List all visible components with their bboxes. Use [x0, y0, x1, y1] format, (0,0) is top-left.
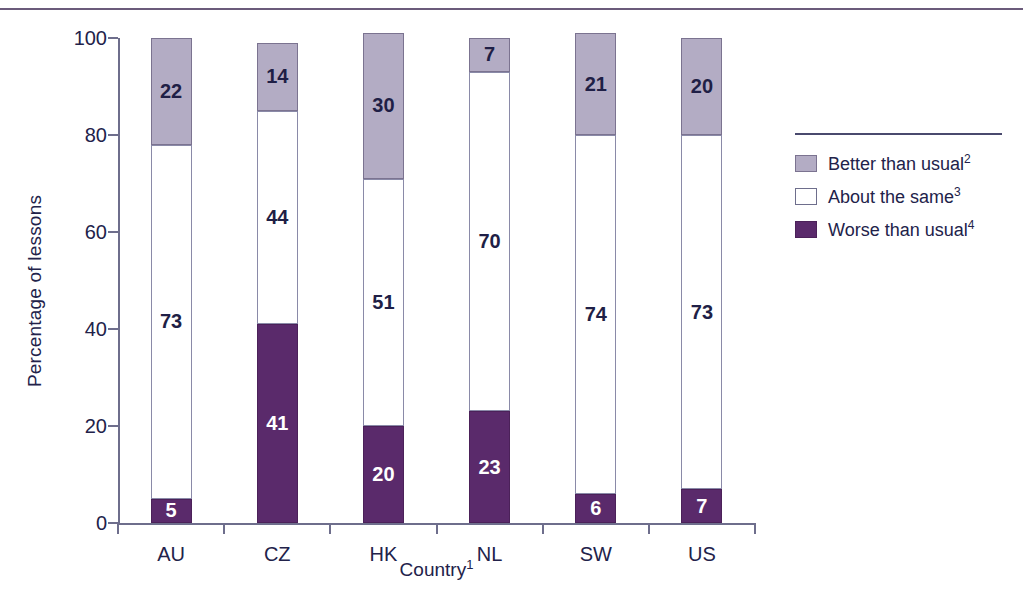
bar-segment-hk-worse-than-usual[interactable]: 20 [363, 426, 404, 523]
legend: Better than usual2About the same3Worse t… [795, 133, 1007, 251]
bar-segment-us-worse-than-usual[interactable]: 7 [681, 489, 722, 523]
legend-swatch-worse [795, 221, 817, 238]
x-axis-title-footnote: 1 [466, 557, 473, 572]
y-tick-label-20: 20 [37, 415, 107, 438]
x-tick-mark [223, 523, 225, 534]
x-axis-title: Country1 [118, 557, 755, 581]
bar-value-label: 20 [691, 75, 713, 98]
x-tick-mark [754, 523, 756, 534]
bar-value-label: 44 [266, 206, 288, 229]
bar-nl[interactable]: 77023 [469, 38, 510, 523]
bar-segment-au-about-the-same[interactable]: 73 [151, 145, 192, 499]
bar-value-label: 73 [691, 301, 713, 324]
bar-value-label: 5 [166, 499, 177, 522]
bar-segment-us-about-the-same[interactable]: 73 [681, 135, 722, 489]
bar-segment-sw-better-than-usual[interactable]: 21 [575, 33, 616, 135]
legend-divider-rule [795, 133, 1002, 135]
bar-hk[interactable]: 305120 [363, 33, 404, 523]
bar-sw[interactable]: 21746 [575, 33, 616, 523]
y-tick-mark [108, 425, 118, 427]
bar-segment-us-better-than-usual[interactable]: 20 [681, 38, 722, 135]
bar-value-label: 30 [372, 94, 394, 117]
x-tick-mark [117, 523, 119, 534]
y-tick-label-0: 0 [37, 512, 107, 535]
bar-segment-nl-better-than-usual[interactable]: 7 [469, 38, 510, 72]
x-tick-mark [648, 523, 650, 534]
y-tick-label-60: 60 [37, 221, 107, 244]
bar-value-label: 7 [696, 495, 707, 518]
legend-item-footnote: 2 [964, 152, 971, 166]
bar-value-label: 74 [585, 303, 607, 326]
bar-segment-hk-about-the-same[interactable]: 51 [363, 179, 404, 426]
legend-item-label: About the same3 [828, 185, 961, 208]
bar-value-label: 7 [484, 43, 495, 66]
x-tick-mark [329, 523, 331, 534]
y-tick-mark [108, 231, 118, 233]
bar-value-label: 51 [372, 291, 394, 314]
legend-item-about-the-same[interactable]: About the same3 [795, 185, 1007, 208]
legend-item-label: Better than usual2 [828, 152, 971, 175]
bar-value-label: 22 [160, 80, 182, 103]
y-tick-label-40: 40 [37, 318, 107, 341]
y-tick-mark [108, 328, 118, 330]
bar-value-label: 23 [478, 456, 500, 479]
bar-segment-cz-about-the-same[interactable]: 44 [257, 111, 298, 324]
bar-segment-nl-worse-than-usual[interactable]: 23 [469, 411, 510, 523]
bar-segment-sw-worse-than-usual[interactable]: 6 [575, 494, 616, 523]
legend-item-worse-than-usual[interactable]: Worse than usual4 [795, 218, 1007, 241]
legend-item-label: Worse than usual4 [828, 218, 974, 241]
y-tick-mark [108, 134, 118, 136]
y-tick-label-80: 80 [37, 124, 107, 147]
legend-item-footnote: 4 [968, 218, 975, 232]
bar-segment-au-better-than-usual[interactable]: 22 [151, 38, 192, 145]
legend-item-footnote: 3 [954, 185, 961, 199]
y-tick-mark [108, 37, 118, 39]
bar-segment-cz-worse-than-usual[interactable]: 41 [257, 324, 298, 523]
legend-swatch-same [795, 188, 817, 205]
bar-value-label: 14 [266, 65, 288, 88]
bar-value-label: 41 [266, 412, 288, 435]
legend-item-better-than-usual[interactable]: Better than usual2 [795, 152, 1007, 175]
bar-segment-nl-about-the-same[interactable]: 70 [469, 72, 510, 412]
bar-au[interactable]: 22735 [151, 38, 192, 523]
bar-value-label: 20 [372, 463, 394, 486]
bar-value-label: 73 [160, 310, 182, 333]
bar-cz[interactable]: 144441 [257, 43, 298, 523]
bar-segment-au-worse-than-usual[interactable]: 5 [151, 499, 192, 523]
bar-us[interactable]: 20737 [681, 38, 722, 523]
bar-value-label: 70 [478, 230, 500, 253]
stacked-bar-chart: Percentage of lessons 10080604020022735A… [0, 0, 1023, 611]
bar-segment-sw-about-the-same[interactable]: 74 [575, 135, 616, 494]
x-tick-mark [436, 523, 438, 534]
legend-swatch-better [795, 155, 817, 172]
bar-segment-hk-better-than-usual[interactable]: 30 [363, 33, 404, 179]
bar-segment-cz-better-than-usual[interactable]: 14 [257, 43, 298, 111]
x-tick-mark [542, 523, 544, 534]
plot-area: 10080604020022735AU144441CZ305120HK77023… [118, 38, 755, 523]
bar-value-label: 6 [590, 497, 601, 520]
y-tick-label-100: 100 [37, 27, 107, 50]
bar-value-label: 21 [585, 73, 607, 96]
